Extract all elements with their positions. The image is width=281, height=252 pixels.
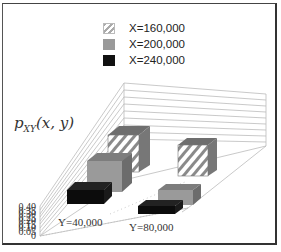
category-label-y40000: Y=40,000 [58, 216, 103, 228]
svg-text:0: 0 [31, 230, 36, 241]
clipped-caption [0, 245, 281, 252]
z-axis-ticks: 0.40 0.35 0.30 0.25 0.20 0.15 0.10 0.05 … [19, 201, 37, 241]
bar-x240000-y40000 [67, 182, 112, 204]
category-label-y80000: Y=80,000 [129, 221, 174, 233]
bar-x160000-y80000 [178, 138, 217, 176]
bar-x240000-y80000 [138, 200, 183, 214]
plot-area: 0.40 0.35 0.30 0.25 0.20 0.15 0.10 0.05 … [0, 0, 281, 252]
